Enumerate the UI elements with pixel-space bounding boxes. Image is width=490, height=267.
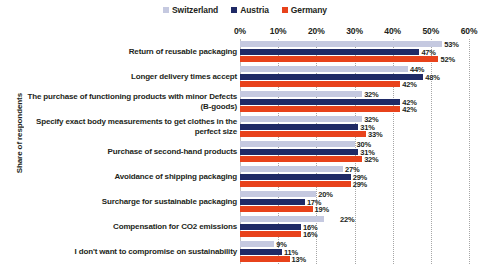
bar-row: 11% <box>240 249 469 255</box>
bar-austria[interactable] <box>240 249 282 255</box>
category-label: Surcharge for sustainable packaging <box>26 189 237 214</box>
x-axis-tick-label: 20% <box>308 26 325 36</box>
bar-austria[interactable] <box>240 224 301 230</box>
category-label-text: Surcharge for sustainable packaging <box>102 197 237 207</box>
bar-row: 16% <box>240 224 469 230</box>
bar-value-label: 16% <box>303 229 317 238</box>
bar-value-label: 53% <box>444 40 458 49</box>
legend-swatch-icon <box>163 7 169 13</box>
bar-row: 29% <box>240 181 469 187</box>
bar-austria[interactable] <box>240 149 358 155</box>
category-label: I don't want to compromise on sustainabi… <box>26 239 237 264</box>
bar-germany[interactable] <box>240 256 290 262</box>
x-axis-tick-label: 40% <box>384 26 401 36</box>
bar-value-label: 44% <box>410 65 424 74</box>
bar-germany[interactable] <box>240 206 313 212</box>
bar-group: 20%17%19% <box>240 189 469 214</box>
category-axis-labels: Return of reusable packagingLonger deliv… <box>26 39 237 264</box>
bar-row: 32% <box>240 156 469 162</box>
bar-switzerland[interactable] <box>240 116 362 122</box>
bar-row: 22% <box>240 216 469 222</box>
legend-item-austria[interactable]: Austria <box>231 5 269 15</box>
bar-austria[interactable] <box>240 199 305 205</box>
x-axis-tick-label: 30% <box>346 26 363 36</box>
bar-group: 32%31%33% <box>240 114 469 139</box>
bar-row: 20% <box>240 191 469 197</box>
legend-item-germany[interactable]: Germany <box>282 5 327 15</box>
bar-germany[interactable] <box>240 81 400 87</box>
bar-row: 42% <box>240 99 469 105</box>
bar-row: 31% <box>240 149 469 155</box>
legend-swatch-icon <box>231 7 237 13</box>
bar-germany[interactable] <box>240 106 400 112</box>
bar-germany[interactable] <box>240 56 438 62</box>
bar-groups: 53%47%52%44%48%42%32%42%42%32%31%33%30%3… <box>240 39 469 264</box>
bar-value-label: 33% <box>368 129 382 138</box>
bar-switzerland[interactable] <box>240 191 316 197</box>
category-label: Compensation for CO2 emissions <box>26 214 237 239</box>
bar-group: 27%29%29% <box>240 164 469 189</box>
bar-row: 32% <box>240 91 469 97</box>
bar-value-label: 32% <box>364 90 378 99</box>
bar-value-label: 32% <box>364 154 378 163</box>
bar-value-label: 19% <box>315 204 329 213</box>
category-label: The purchase of functioning products wit… <box>26 89 237 114</box>
bar-row: 31% <box>240 124 469 130</box>
bar-austria[interactable] <box>240 124 358 130</box>
bar-value-label: 13% <box>292 254 306 263</box>
bar-switzerland[interactable] <box>240 141 355 147</box>
bar-switzerland[interactable] <box>240 66 408 72</box>
bar-germany[interactable] <box>240 231 301 237</box>
bar-value-label: 42% <box>402 104 416 113</box>
category-label: Return of reusable packaging <box>26 39 237 64</box>
bar-germany[interactable] <box>240 131 366 137</box>
category-label: Purchase of second-hand products <box>26 139 237 164</box>
bar-row: 13% <box>240 256 469 262</box>
bar-row: 42% <box>240 81 469 87</box>
bar-austria[interactable] <box>240 74 423 80</box>
bar-row: 9% <box>240 241 469 247</box>
legend-item-switzerland[interactable]: Switzerland <box>163 5 218 15</box>
y-axis-title: Share of respondents <box>11 0 27 267</box>
bar-value-label: 48% <box>425 72 439 81</box>
category-label: Specify exact body measurements to get c… <box>26 114 237 139</box>
bar-row: 16% <box>240 231 469 237</box>
bar-group: 53%47%52% <box>240 39 469 64</box>
x-axis-tick-label: 10% <box>270 26 287 36</box>
bar-value-label: 47% <box>421 47 435 56</box>
bar-row: 42% <box>240 106 469 112</box>
bar-row: 19% <box>240 206 469 212</box>
category-label: Longer delivery times accept <box>26 64 237 89</box>
bar-group: 32%42%42% <box>240 89 469 114</box>
bar-value-label: 42% <box>402 79 416 88</box>
plot-area: 53%47%52%44%48%42%32%42%42%32%31%33%30%3… <box>240 39 469 264</box>
category-label-text: The purchase of functioning products wit… <box>26 92 237 111</box>
gridline <box>469 39 470 264</box>
category-label-text: Return of reusable packaging <box>129 47 237 57</box>
bar-germany[interactable] <box>240 181 351 187</box>
legend-item-label: Germany <box>291 5 327 15</box>
bar-group: 22%16%16% <box>240 214 469 239</box>
bar-switzerland[interactable] <box>240 41 442 47</box>
bar-value-label: 52% <box>440 54 454 63</box>
bar-austria[interactable] <box>240 99 400 105</box>
x-axis-tick-labels: 0%10%20%30%40%50%60% <box>240 26 469 38</box>
bar-row: 17% <box>240 199 469 205</box>
y-axis-title-label: Share of respondents <box>15 93 24 173</box>
category-label-text: Compensation for CO2 emissions <box>113 222 237 232</box>
bar-row: 48% <box>240 74 469 80</box>
bar-switzerland[interactable] <box>240 241 274 247</box>
bar-germany[interactable] <box>240 156 362 162</box>
bar-value-label: 29% <box>353 179 367 188</box>
bar-group: 9%11%13% <box>240 239 469 264</box>
bar-switzerland[interactable] <box>240 166 343 172</box>
bar-austria[interactable] <box>240 49 419 55</box>
bar-switzerland[interactable] <box>240 91 362 97</box>
bar-group: 30%31%32% <box>240 139 469 164</box>
category-label-text: Specify exact body measurements to get c… <box>26 117 237 136</box>
bar-austria[interactable] <box>240 174 351 180</box>
chart-legend: SwitzerlandAustriaGermany <box>0 3 490 17</box>
bar-row: 32% <box>240 116 469 122</box>
x-axis-tick-label: 50% <box>422 26 439 36</box>
bar-row: 47% <box>240 49 469 55</box>
